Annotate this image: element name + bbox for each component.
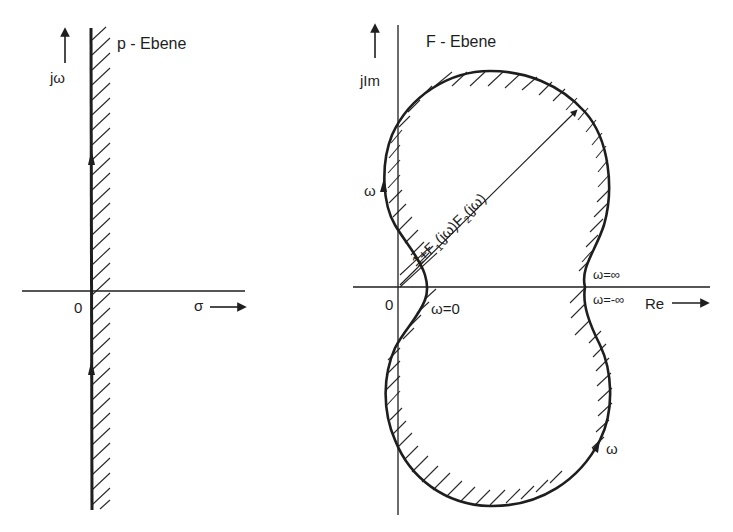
omega-lower-label: ω: [606, 441, 618, 456]
omega-inf-label: ω=∞: [593, 268, 620, 281]
omega-neg-inf-label: ω=-∞: [593, 293, 624, 306]
p-plane-origin-label: 0: [74, 300, 82, 315]
f-plane-origin-label: 0: [385, 297, 393, 312]
omega-zero-label: ω=0: [431, 301, 460, 316]
f-plane: [353, 25, 710, 515]
right-half-plane-hatching: [92, 27, 110, 509]
curve-hatching: [386, 72, 612, 505]
f-plane-x-axis-label: Re: [645, 296, 664, 311]
omega-upper-label: ω: [364, 183, 376, 198]
f-plane-title: F - Ebene: [426, 34, 496, 50]
p-plane-x-axis-label: σ: [194, 298, 203, 313]
imaginary-axis-p: [91, 28, 92, 510]
p-plane-y-axis-label: jω: [50, 70, 65, 85]
f-plane-y-axis-label: jIm: [360, 73, 380, 88]
p-plane: [22, 27, 245, 510]
p-plane-title: p - Ebene: [117, 36, 186, 52]
direction-arrow-icon: [380, 178, 387, 192]
nyquist-curve: [384, 71, 610, 506]
